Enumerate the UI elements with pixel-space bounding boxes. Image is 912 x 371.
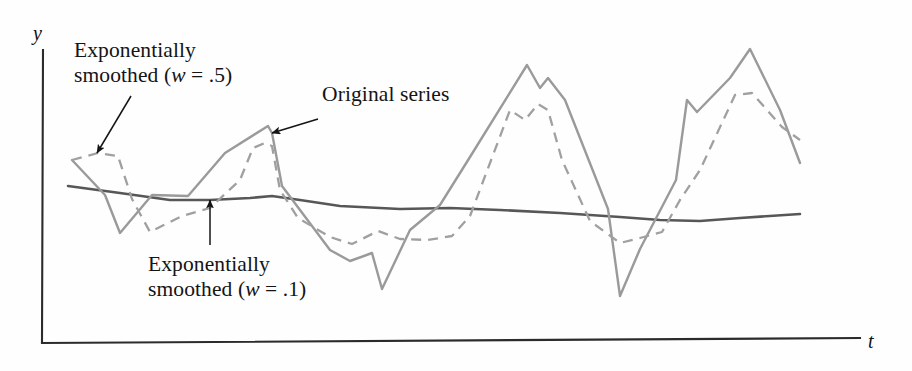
annotation-arrow-smoothed-w05 bbox=[97, 96, 131, 153]
annotation-line-1: Exponentially bbox=[74, 38, 196, 62]
annotation-line-2-prefix: smoothed ( bbox=[148, 277, 245, 301]
annotation-line-2-suffix: = .1) bbox=[260, 277, 307, 301]
y-axis bbox=[42, 50, 43, 342]
annotation-line-2-suffix: = .5) bbox=[186, 63, 233, 87]
annotation-label-smoothed-w01: Exponentiallysmoothed (w = .1) bbox=[148, 252, 306, 302]
series-line-smoothed-w01 bbox=[68, 186, 800, 221]
annotation-weight-variable: w bbox=[245, 277, 259, 301]
exponential-smoothing-figure: Exponentiallysmoothed (w = .5) Original … bbox=[0, 0, 912, 371]
x-axis bbox=[42, 338, 860, 343]
annotation-weight-variable: w bbox=[171, 63, 185, 87]
annotation-arrow-original-series bbox=[272, 119, 318, 133]
annotation-line-1: Original series bbox=[322, 82, 449, 106]
y-axis-label: y bbox=[33, 22, 42, 45]
x-axis-label: t bbox=[868, 330, 874, 353]
annotation-label-original-series: Original series bbox=[322, 82, 449, 107]
annotation-label-smoothed-w05: Exponentiallysmoothed (w = .5) bbox=[74, 38, 232, 88]
annotation-line-1: Exponentially bbox=[148, 252, 270, 276]
annotation-line-2-prefix: smoothed ( bbox=[74, 63, 171, 87]
